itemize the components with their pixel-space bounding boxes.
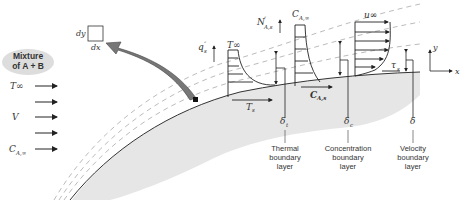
svg-text:layer: layer bbox=[340, 162, 357, 171]
svg-text:A,s: A,s bbox=[263, 24, 273, 30]
svg-text:C: C bbox=[292, 9, 299, 19]
svg-text:dx: dx bbox=[91, 43, 101, 52]
velocity-layer-label: Velocity boundary layer bbox=[397, 144, 429, 171]
velocity-delta-label: δ bbox=[410, 116, 415, 126]
heat-flux: q ″ s bbox=[198, 40, 214, 62]
y-axis-label: y bbox=[432, 43, 438, 52]
svg-text:dy: dy bbox=[76, 29, 86, 38]
concentration-layer-label: Concentration boundary layer bbox=[325, 144, 372, 171]
svg-text:boundary: boundary bbox=[269, 153, 301, 162]
svg-text:boundary: boundary bbox=[397, 153, 429, 162]
coordinate-axes bbox=[430, 50, 452, 71]
boundary-layer-diagram: Mixture of A + B T∞ V C A,∞ dy dx q ″ s bbox=[0, 0, 467, 207]
thermal-layer-label: Thermal boundary layer bbox=[269, 144, 301, 171]
svg-text:c: c bbox=[350, 122, 353, 128]
svg-text:″: ″ bbox=[204, 40, 207, 47]
svg-text:s: s bbox=[397, 66, 400, 72]
x-axis-label: x bbox=[455, 67, 460, 76]
freestream-temperature-label: T∞ bbox=[10, 81, 24, 91]
svg-text:s: s bbox=[204, 48, 207, 54]
svg-text:of A + B: of A + B bbox=[12, 61, 44, 71]
mixture-label: Mixture of A + B bbox=[2, 49, 54, 75]
differential-element: dy dx bbox=[76, 26, 103, 52]
freestream-arrows bbox=[35, 86, 57, 149]
svg-text:A,s: A,s bbox=[316, 95, 326, 101]
freestream-concentration-label: C A,∞ bbox=[9, 144, 26, 156]
thermal-top-label: T∞ bbox=[227, 40, 241, 50]
svg-text:δ: δ bbox=[280, 116, 285, 126]
svg-text:Concentration: Concentration bbox=[325, 144, 372, 153]
svg-text:layer: layer bbox=[405, 162, 422, 171]
svg-text:boundary: boundary bbox=[332, 153, 364, 162]
svg-text:Thermal: Thermal bbox=[271, 144, 299, 153]
zoom-arrow bbox=[106, 42, 196, 100]
svg-text:δ: δ bbox=[410, 116, 415, 126]
diagram-canvas: Mixture of A + B T∞ V C A,∞ dy dx q ″ s bbox=[0, 0, 467, 207]
svg-text:C: C bbox=[9, 144, 16, 154]
svg-text:δ: δ bbox=[344, 116, 349, 126]
freestream-velocity-label: V bbox=[12, 112, 20, 122]
svg-text:A,∞: A,∞ bbox=[15, 150, 26, 156]
svg-text:layer: layer bbox=[277, 162, 294, 171]
molar-flux: N ″ A,s bbox=[256, 15, 280, 33]
concentration-top-label: C A,∞ bbox=[292, 9, 309, 21]
svg-text:Velocity: Velocity bbox=[400, 144, 426, 153]
svg-text:s: s bbox=[252, 107, 255, 113]
element-marker bbox=[193, 97, 198, 102]
velocity-top-label: u∞ bbox=[364, 10, 377, 20]
svg-text:A,∞: A,∞ bbox=[298, 15, 309, 21]
svg-text:Mixture: Mixture bbox=[13, 51, 44, 61]
shear-stress-label: τ s bbox=[391, 60, 400, 72]
svg-text:″: ″ bbox=[264, 15, 267, 22]
